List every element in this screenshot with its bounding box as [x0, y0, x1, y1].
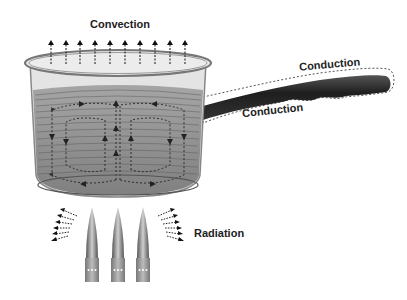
- radiation-label: Radiation: [194, 227, 244, 239]
- radiation-arrows-left: [51, 208, 77, 241]
- diagram-canvas: [0, 0, 407, 300]
- saucepan: [25, 50, 211, 197]
- convection-label: Convection: [90, 18, 150, 30]
- radiation-arrows-right: [158, 208, 184, 241]
- burner-3: [136, 207, 150, 282]
- burners: [85, 207, 150, 282]
- burner-2: [111, 207, 125, 282]
- pan-handle: [203, 68, 394, 123]
- burner-1: [85, 207, 99, 282]
